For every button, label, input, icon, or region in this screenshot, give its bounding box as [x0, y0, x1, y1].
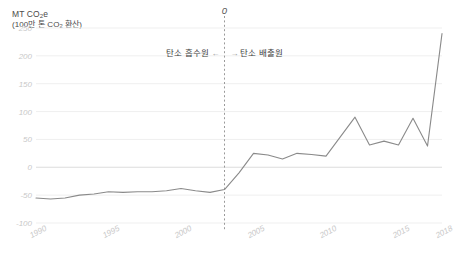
- divider-zero-label: 0: [222, 5, 227, 16]
- y-axis-tick-label: 250: [19, 24, 32, 33]
- y-axis-tick-label: 50: [23, 135, 32, 144]
- x-axis-tick-label: 2015: [391, 224, 411, 240]
- y-axis-tick-label: 200: [19, 51, 32, 60]
- x-axis-tick-label: 2018: [434, 224, 454, 240]
- x-axis-tick-label: 2000: [173, 224, 193, 240]
- y-axis-tick-label: -100: [16, 219, 32, 228]
- carbon-sink-label: 탄소 흡수원 ←: [166, 46, 218, 58]
- carbon-sink-text: 탄소 흡수원: [166, 48, 209, 58]
- y-axis-tick-label: 100: [19, 107, 32, 116]
- plot-area: 250200150100500-50-100 19901995200020052…: [36, 28, 442, 223]
- x-axis-tick-label: 1995: [101, 224, 121, 240]
- left-arrow-icon: ←: [212, 49, 219, 58]
- y-axis-tick-label: -50: [20, 191, 32, 200]
- carbon-source-text: 탄소 배출원: [240, 48, 283, 58]
- data-line: [36, 34, 442, 199]
- x-axis-tick-label: 2010: [318, 224, 338, 240]
- right-arrow-icon: →: [231, 49, 238, 58]
- chart-figure: MT CO2e (100만 톤 CO2 환산) 250200150100500-…: [0, 0, 456, 255]
- x-axis-tick-label: 2005: [246, 224, 266, 240]
- y-axis-tick-label: 150: [19, 79, 32, 88]
- axis-title-unit: MT CO2e: [12, 9, 82, 20]
- carbon-source-label: → 탄소 배출원: [231, 46, 283, 58]
- y-axis-tick-label: 0: [28, 163, 32, 172]
